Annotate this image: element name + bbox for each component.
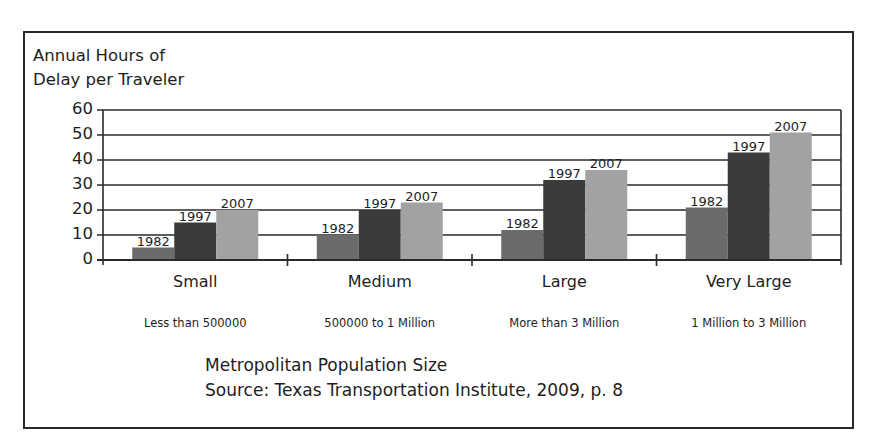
bar-label: 1997 — [179, 209, 212, 224]
bar-label: 2007 — [774, 119, 807, 134]
category-label: Medium — [288, 272, 472, 291]
category-label: Small — [103, 272, 287, 291]
bar-label: 1997 — [732, 139, 765, 154]
source-note: Source: Texas Transportation Institute, … — [205, 380, 623, 400]
bar-1982 — [317, 235, 359, 260]
bar-2007 — [216, 210, 258, 260]
bar-2007 — [401, 203, 443, 261]
bar-1982 — [501, 230, 543, 260]
bar-label: 1982 — [137, 234, 170, 249]
bar-1997 — [359, 210, 401, 260]
category-subtitle: 1 Million to 3 Million — [657, 316, 841, 330]
category-subtitle: 500000 to 1 Million — [288, 316, 472, 330]
bar-1997 — [543, 180, 585, 260]
x-axis-title: Metropolitan Population Size — [205, 355, 447, 375]
bar-label: 2007 — [221, 196, 254, 211]
bar-1982 — [686, 208, 728, 261]
category-label: Large — [472, 272, 656, 291]
bar-1997 — [174, 223, 216, 261]
bar-label: 1982 — [506, 216, 539, 231]
bar-label: 2007 — [590, 156, 623, 171]
bar-label: 2007 — [405, 189, 438, 204]
category-subtitle: More than 3 Million — [472, 316, 656, 330]
category-subtitle: Less than 500000 — [103, 316, 287, 330]
bar-1997 — [728, 153, 770, 261]
bar-label: 1982 — [321, 221, 354, 236]
category-label: Very Large — [657, 272, 841, 291]
bar-2007 — [585, 170, 627, 260]
bar-label: 1982 — [690, 194, 723, 209]
bar-label: 1997 — [548, 166, 581, 181]
bar-1982 — [132, 248, 174, 261]
bar-2007 — [770, 133, 812, 261]
bar-label: 1997 — [363, 196, 396, 211]
